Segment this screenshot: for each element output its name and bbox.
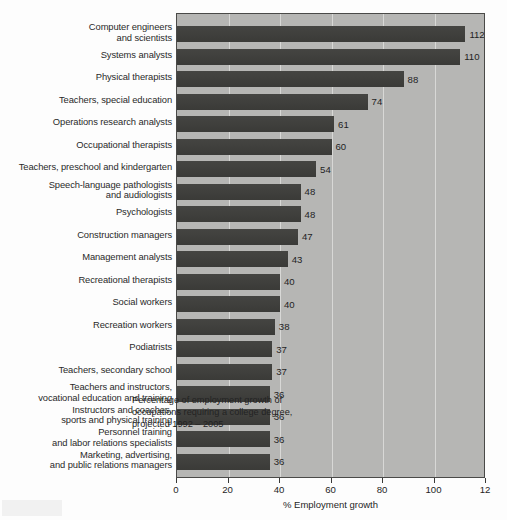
category-label: Marketing, advertising, and public relat… <box>0 450 172 471</box>
bar-value-label: 48 <box>305 186 316 197</box>
category-label: Teachers, secondary school <box>0 365 172 376</box>
bar <box>177 229 298 245</box>
bar-value-label: 37 <box>276 344 287 355</box>
category-label: Physical therapists <box>0 72 172 83</box>
bar-value-label: 74 <box>372 96 383 107</box>
bar <box>177 139 332 155</box>
bar-value-label: 37 <box>276 366 287 377</box>
bar-value-label: 43 <box>292 254 303 265</box>
scan-artifact <box>2 500 62 516</box>
bar-value-label: 88 <box>408 74 419 85</box>
bar-value-label: 47 <box>302 231 313 242</box>
x-tick-80 <box>382 478 383 483</box>
bar-value-label: 61 <box>338 119 349 130</box>
bar <box>177 206 301 222</box>
bar-value-label: 40 <box>284 276 295 287</box>
category-label: Systems analysts <box>0 50 172 61</box>
bar <box>177 116 334 132</box>
x-tick-100 <box>434 478 435 483</box>
x-tick-label-40: 40 <box>274 484 285 496</box>
x-tick-label-20: 20 <box>222 484 233 496</box>
bar-value-label: 36 <box>274 434 285 445</box>
category-label: Psychologists <box>0 207 172 218</box>
bar-value-label: 48 <box>305 209 316 220</box>
bar-value-label: 112 <box>469 29 484 40</box>
x-tick-40 <box>279 478 280 483</box>
category-label: Operations research analysts <box>0 117 172 128</box>
bar <box>177 431 270 447</box>
category-label: Social workers <box>0 297 172 308</box>
bar <box>177 161 316 177</box>
category-label: Teachers, special education <box>0 95 172 106</box>
bar-value-label: 36 <box>274 456 285 467</box>
bar <box>177 274 280 290</box>
bar <box>177 319 275 335</box>
bar <box>177 94 368 110</box>
category-label: Construction managers <box>0 230 172 241</box>
category-label: Occupational therapists <box>0 140 172 151</box>
bar-value-label: 38 <box>279 321 290 332</box>
chart-annotation: Percentage of employment growth of occup… <box>132 394 304 431</box>
category-label: Computer engineers and scientists <box>0 22 172 43</box>
x-tick-label-80: 80 <box>377 484 388 496</box>
x-tick-label-0: 0 <box>173 484 178 496</box>
category-label: Recreation workers <box>0 320 172 331</box>
x-tick-120 <box>485 478 486 483</box>
x-tick-label-120: 12 <box>480 484 491 496</box>
x-axis-tick-labels: 02040608010012 <box>0 484 507 498</box>
bar-value-label: 60 <box>336 141 347 152</box>
bar <box>177 49 460 65</box>
bar <box>177 26 465 42</box>
category-label: Management analysts <box>0 252 172 263</box>
x-tick-0 <box>176 478 177 483</box>
bar-chart-figure: Computer engineers and scientistsSystems… <box>0 0 507 520</box>
bar-value-label: 40 <box>284 299 295 310</box>
x-tick-label-60: 60 <box>325 484 336 496</box>
x-tick-60 <box>331 478 332 483</box>
bar-value-label: 54 <box>320 164 331 175</box>
bar <box>177 184 301 200</box>
bar <box>177 296 280 312</box>
x-axis-title: % Employment growth <box>176 499 485 511</box>
category-label: Recreational therapists <box>0 275 172 286</box>
category-label: Speech-language pathologists and audiolo… <box>0 180 172 201</box>
bar <box>177 364 272 380</box>
bar <box>177 454 270 470</box>
category-label: Podiatrists <box>0 342 172 353</box>
bar-value-label: 110 <box>464 51 479 62</box>
category-label: Teachers, preschool and kindergarten <box>0 162 172 173</box>
x-tick-label-100: 100 <box>425 484 441 496</box>
bar <box>177 71 404 87</box>
x-tick-20 <box>228 478 229 483</box>
bar <box>177 341 272 357</box>
bar <box>177 251 288 267</box>
